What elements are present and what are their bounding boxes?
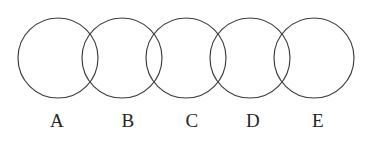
label-circle-e: E (303, 111, 333, 130)
label-circle-d: D (238, 111, 268, 130)
label-circle-b: B (113, 111, 143, 130)
label-circle-c: C (177, 111, 207, 130)
venn-chain-figure: A B C D E (0, 0, 379, 142)
circle-labels: A B C D E (0, 0, 379, 142)
label-circle-a: A (42, 111, 72, 130)
